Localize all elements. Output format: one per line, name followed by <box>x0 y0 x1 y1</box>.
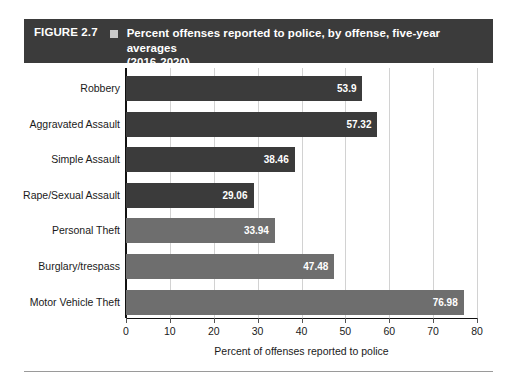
bar-value-label: 29.06 <box>222 190 247 201</box>
category-label: Rape/Sexual Assault <box>0 183 120 208</box>
bar-value-label: 47.48 <box>303 261 328 272</box>
bar: 53.9 <box>126 76 362 101</box>
x-axis-tick-label: 80 <box>462 325 492 337</box>
bottom-divider <box>24 371 493 372</box>
x-axis-tick-label: 40 <box>287 325 317 337</box>
bar-row: Motor Vehicle Theft76.98 <box>0 290 509 315</box>
category-label: Motor Vehicle Theft <box>0 290 120 315</box>
bar: 57.32 <box>126 112 377 137</box>
x-axis-tick-label: 20 <box>199 325 229 337</box>
figure-title-line-1: Percent offenses reported to police, by … <box>127 27 441 54</box>
bar-row: Personal Theft33.94 <box>0 218 509 243</box>
bar: 33.94 <box>126 218 275 243</box>
x-axis-tick <box>477 318 478 323</box>
x-axis-tick-label: 0 <box>111 325 141 337</box>
bar-rows-group: Robbery53.9Aggravated Assault57.32Simple… <box>0 68 509 318</box>
x-axis-tick <box>258 318 259 323</box>
bar: 76.98 <box>126 290 464 315</box>
bar: 29.06 <box>126 183 254 208</box>
bar-value-label: 33.94 <box>244 225 269 236</box>
bar-value-label: 53.9 <box>337 83 356 94</box>
x-axis-tick-label: 30 <box>243 325 273 337</box>
category-label: Robbery <box>0 76 120 101</box>
bar-row: Aggravated Assault57.32 <box>0 112 509 137</box>
chart-plot-area: Robbery53.9Aggravated Assault57.32Simple… <box>0 68 509 318</box>
bar-row: Robbery53.9 <box>0 76 509 101</box>
bar-value-label: 76.98 <box>433 297 458 308</box>
x-axis-tick-label: 70 <box>418 325 448 337</box>
x-axis-tick <box>214 318 215 323</box>
x-axis-tick <box>170 318 171 323</box>
x-axis-title: Percent of offenses reported to police <box>126 345 477 357</box>
category-label: Burglary/trespass <box>0 254 120 279</box>
x-axis-tick <box>345 318 346 323</box>
bar-row: Rape/Sexual Assault29.06 <box>0 183 509 208</box>
category-label: Simple Assault <box>0 147 120 172</box>
x-axis-tick-label: 60 <box>374 325 404 337</box>
figure-title: Percent offenses reported to police, by … <box>127 26 483 70</box>
x-axis-tick-label: 50 <box>330 325 360 337</box>
x-axis-tick <box>302 318 303 323</box>
x-axis-tick <box>126 318 127 323</box>
category-label: Aggravated Assault <box>0 112 120 137</box>
figure-header-bar: FIGURE 2.7 Percent offenses reported to … <box>24 19 493 63</box>
bar: 47.48 <box>126 254 334 279</box>
x-axis-tick <box>389 318 390 323</box>
bar: 38.46 <box>126 147 295 172</box>
category-label: Personal Theft <box>0 218 120 243</box>
bar-value-label: 57.32 <box>346 119 371 130</box>
figure-number-label: FIGURE 2.7 <box>34 26 98 38</box>
bar-row: Burglary/trespass47.48 <box>0 254 509 279</box>
square-bullet-icon <box>110 30 118 38</box>
bar-row: Simple Assault38.46 <box>0 147 509 172</box>
x-axis-tick <box>433 318 434 323</box>
bar-value-label: 38.46 <box>264 154 289 165</box>
x-axis-tick-label: 10 <box>155 325 185 337</box>
